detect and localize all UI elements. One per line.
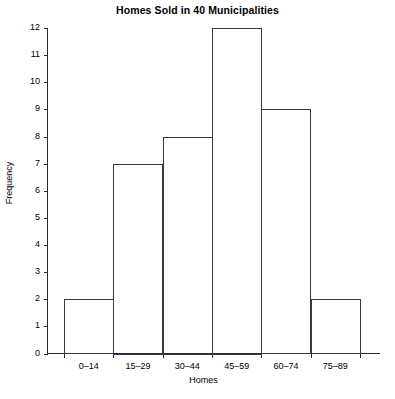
histogram-bar [312,300,361,354]
y-tick-label: 5 [14,213,40,222]
histogram-bar [65,300,114,354]
y-tick-label: 4 [14,240,40,249]
y-tick-label: 9 [14,104,40,113]
histogram-bar [213,29,262,355]
y-tick-label: 11 [14,50,40,59]
x-tick-label: 30–44 [163,362,212,371]
y-tick-label: 7 [14,159,40,168]
y-tick-label: 6 [14,186,40,195]
bars [65,29,361,355]
x-tick-label: 0–14 [64,362,113,371]
y-tick-label: 3 [14,267,40,276]
y-tick-marks [44,29,48,355]
y-tick-label: 2 [14,294,40,303]
y-tick-label: 12 [14,23,40,32]
x-tick-label: 75–89 [311,362,360,371]
y-tick-label: 0 [14,349,40,358]
x-tick-label: 45–59 [212,362,261,371]
plot-area [0,0,395,399]
y-tick-label: 8 [14,132,40,141]
x-tick-label: 15–29 [113,362,162,371]
x-tick-label: 60–74 [261,362,310,371]
y-tick-label: 1 [14,321,40,330]
histogram-bar [164,138,213,355]
histogram-bar [262,110,311,354]
y-tick-label: 10 [14,77,40,86]
histogram-chart: Homes Sold in 40 Municipalities Frequenc… [0,0,395,399]
axes [48,28,381,354]
histogram-bar [114,165,163,355]
